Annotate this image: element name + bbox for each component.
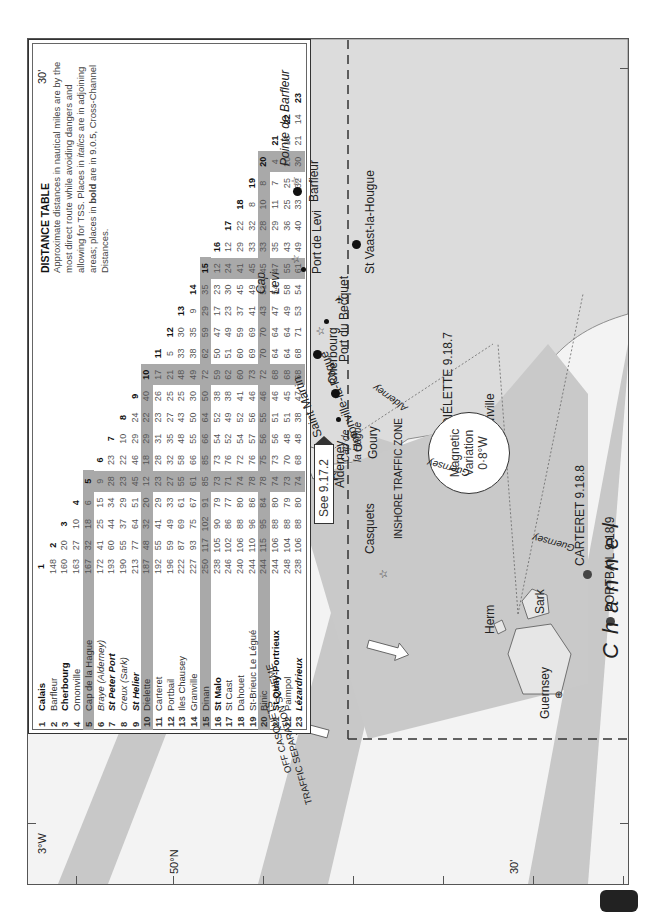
- distance-cell: 64: [200, 407, 212, 428]
- distance-cell: 115: [258, 535, 270, 556]
- distance-cell: 33: [258, 237, 270, 258]
- distance-cell: 68: [293, 450, 305, 471]
- distance-cell: 50: [188, 407, 200, 428]
- distance-cell: 37: [235, 300, 247, 321]
- distance-cell: 60: [235, 364, 247, 385]
- distance-cell: 76: [247, 450, 259, 471]
- lighthouse-star-icon: ☆: [378, 569, 389, 579]
- distance-cell: 8: [247, 194, 259, 215]
- distance-cell: 45: [235, 279, 247, 300]
- column-header: 14: [188, 279, 200, 300]
- place-row-label: 15Dinan: [200, 686, 212, 727]
- distance-cell: 48: [293, 428, 305, 449]
- label-barfleur: Barfleur: [307, 160, 321, 202]
- distance-cell: 64: [130, 513, 142, 534]
- distance-cell: 49: [188, 364, 200, 385]
- lighthouse-star-icon: ☆: [290, 254, 301, 264]
- desc-italics: italics: [75, 134, 86, 158]
- distance-cell: 32: [83, 535, 95, 556]
- distance-cell: 68: [270, 364, 282, 385]
- distance-cell: 34: [106, 492, 118, 513]
- label-cap-levi-2: Levi: [268, 272, 282, 294]
- distance-cell: 24: [130, 407, 142, 428]
- distance-cell: 32: [247, 215, 259, 236]
- column-header: 19: [247, 173, 259, 194]
- distance-cell: 69: [247, 343, 259, 364]
- distance-cell: 102: [223, 535, 235, 556]
- distance-cell: 106: [270, 535, 282, 556]
- distance-cell: 62: [223, 364, 235, 385]
- distance-cell: 33: [293, 194, 305, 215]
- label-dielette: DIÉLETTE 9.18.7: [441, 332, 455, 426]
- label-herm: Herm: [483, 605, 497, 634]
- distance-cell: 51: [270, 407, 282, 428]
- distance-cell: 64: [282, 322, 294, 343]
- distance-cell: 72: [258, 364, 270, 385]
- lighthouse-star-icon: ☆: [290, 176, 301, 186]
- distance-cell: 30: [188, 386, 200, 407]
- see-reference-box[interactable]: See 9.17.2: [314, 444, 334, 524]
- distance-cell: 40: [141, 386, 153, 407]
- distance-cell: 69: [247, 322, 259, 343]
- distance-cell: 59: [212, 364, 224, 385]
- tick-left: [76, 876, 77, 884]
- distance-cell: 5: [165, 343, 177, 364]
- distance-cell: 192: [153, 556, 165, 577]
- distance-cell: 110: [247, 535, 259, 556]
- distance-cell: 33: [165, 492, 177, 513]
- distance-cell: 66: [188, 450, 200, 471]
- distance-cell: 49: [165, 513, 177, 534]
- distance-cell: 49: [282, 300, 294, 321]
- distance-cell: 160: [59, 556, 71, 577]
- distance-cell: 238: [212, 556, 224, 577]
- distance-cell: 85: [200, 450, 212, 471]
- tick-bottom: [620, 823, 628, 824]
- distance-cell: 117: [200, 535, 212, 556]
- distance-cell: 7: [270, 173, 282, 194]
- distance-cell: 77: [223, 492, 235, 513]
- distance-cell: 9: [95, 471, 107, 492]
- distance-table-description: DISTANCE TABLE Approximate distances in …: [39, 48, 111, 273]
- column-header: 6: [95, 450, 107, 471]
- port-dot-omonville: [331, 389, 340, 398]
- distance-cell: 45: [282, 386, 294, 407]
- airport-icon: ⊕: [553, 691, 564, 699]
- tick-left: [443, 876, 444, 884]
- port-dot-carteret: [583, 570, 592, 579]
- distance-cell: 172: [95, 556, 107, 577]
- label-itz: INSHORE TRAFFIC ZONE: [393, 418, 404, 539]
- distance-cell: 33: [247, 237, 259, 258]
- distance-cell: 49: [223, 407, 235, 428]
- place-row-label: 7St Peter Port: [106, 653, 118, 727]
- distance-cell: 244: [270, 556, 282, 577]
- distance-cell: 244: [247, 556, 259, 577]
- distance-cell: 190: [118, 556, 130, 577]
- tick-left: [533, 876, 534, 884]
- distance-cell: 72: [235, 450, 247, 471]
- distance-cell: 73: [270, 450, 282, 471]
- column-header: 17: [223, 215, 235, 236]
- distance-cell: 35: [165, 428, 177, 449]
- column-header: 13: [176, 300, 188, 321]
- distance-cell: 57: [247, 428, 259, 449]
- distance-cell: 70: [258, 322, 270, 343]
- distance-cell: 246: [223, 556, 235, 577]
- distance-cell: 88: [235, 513, 247, 534]
- distance-cell: 167: [83, 556, 95, 577]
- column-header: 23: [293, 87, 305, 108]
- column-header: 12: [165, 322, 177, 343]
- distance-cell: 240: [235, 556, 247, 577]
- distance-cell: 68: [293, 343, 305, 364]
- place-row-label: 18Dahouet: [235, 675, 247, 727]
- distance-cell: 21: [293, 130, 305, 151]
- distance-cell: 17: [153, 364, 165, 385]
- airport-icon: ⊕: [348, 431, 359, 439]
- distance-cell: 102: [200, 513, 212, 534]
- distance-cell: 46: [258, 386, 270, 407]
- distance-cell: 8: [258, 173, 270, 194]
- distance-cell: 22: [118, 450, 130, 471]
- distance-cell: 41: [235, 386, 247, 407]
- distance-cell: 28: [258, 215, 270, 236]
- distance-cell: 23: [106, 450, 118, 471]
- distance-cell: 64: [270, 322, 282, 343]
